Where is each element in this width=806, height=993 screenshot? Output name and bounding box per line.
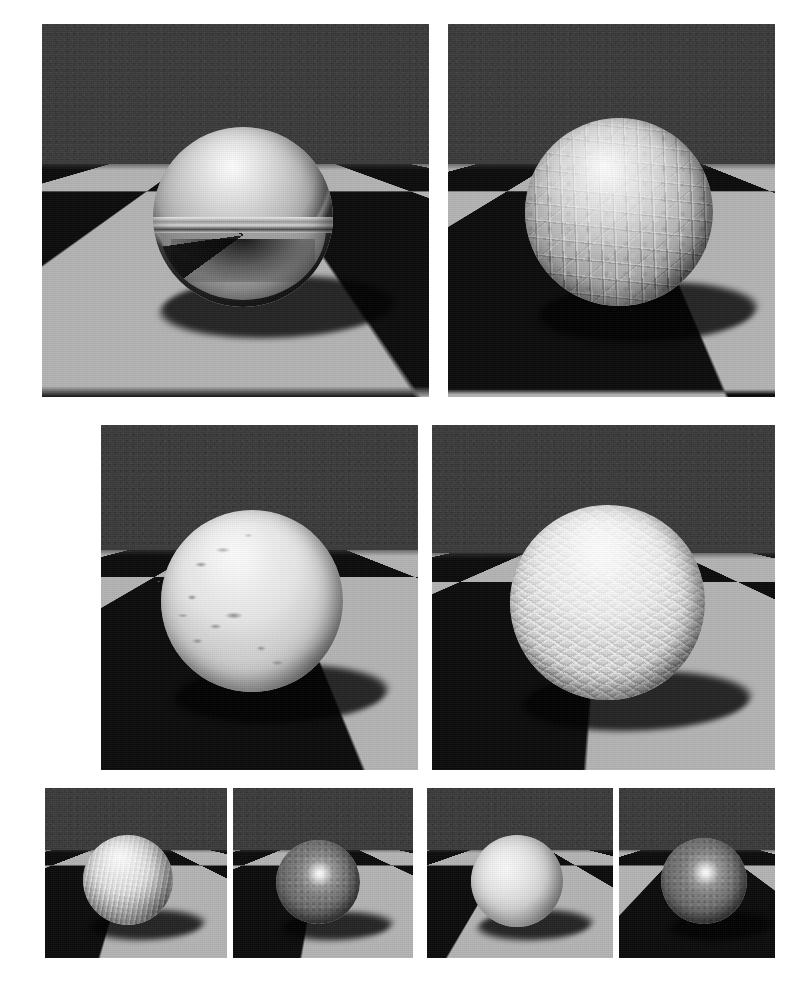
- render-panel-glossy-dark-2: [619, 788, 775, 958]
- scene-crackle: [448, 24, 775, 397]
- render-panel-glossy-dark: [233, 788, 413, 958]
- scene-ribbed: [45, 788, 227, 958]
- scene-glossy-dark: [233, 788, 413, 958]
- sphere-tread: [510, 505, 705, 700]
- scene-glossy-dark-2: [619, 788, 775, 958]
- sphere-dents: [161, 510, 343, 692]
- render-panel-matte: [427, 788, 613, 958]
- sphere-crackle: [525, 118, 713, 306]
- sphere-glossy-dark: [276, 840, 360, 924]
- scene-matte: [427, 788, 613, 958]
- sphere-matte: [471, 835, 563, 927]
- render-panel-tread: [432, 425, 775, 770]
- sphere-mirror: [153, 127, 333, 307]
- figure-image-grid: [0, 0, 806, 993]
- render-panel-ribbed: [45, 788, 227, 958]
- scene-dents: [101, 425, 418, 770]
- render-panel-dents: [101, 425, 418, 770]
- sphere-ribbed: [83, 835, 173, 925]
- scene-mirror: [42, 24, 429, 397]
- scene-tread: [432, 425, 775, 770]
- sphere-glossy-dark-2: [661, 838, 747, 924]
- render-panel-crackle: [448, 24, 775, 397]
- render-panel-mirror: [42, 24, 429, 397]
